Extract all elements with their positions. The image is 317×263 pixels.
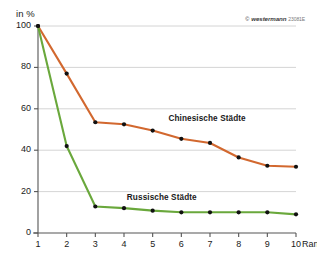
x-tick-label-3: 3 <box>87 239 103 249</box>
data-point-0-9 <box>294 165 298 169</box>
x-tick-label-6: 6 <box>173 239 189 249</box>
y-tick-label-60: 60 <box>9 103 31 113</box>
data-point-1-3 <box>122 206 126 210</box>
chart-plot-area <box>0 0 317 263</box>
series-label-0: Chinesische Städte <box>168 114 245 123</box>
data-point-0-4 <box>151 128 155 132</box>
data-point-0-2 <box>93 120 97 124</box>
x-axis-title: Rang <box>302 239 317 249</box>
data-point-0-6 <box>208 141 212 145</box>
data-point-1-2 <box>93 204 97 208</box>
series-label-1: Russische Städte <box>127 193 197 202</box>
x-tick-label-4: 4 <box>116 239 132 249</box>
chart-figure: in % © westermann 23081E 020406080100 12… <box>0 0 317 263</box>
x-tick-label-1: 1 <box>30 239 46 249</box>
x-tick-label-5: 5 <box>145 239 161 249</box>
y-tick-label-100: 100 <box>9 20 31 30</box>
data-point-0-3 <box>122 122 126 126</box>
series-line-1 <box>38 26 296 214</box>
data-point-1-4 <box>151 209 155 213</box>
data-point-0-1 <box>65 72 69 76</box>
y-tick-label-0: 0 <box>9 227 31 237</box>
y-tick-label-40: 40 <box>9 144 31 154</box>
data-point-0-5 <box>179 137 183 141</box>
data-point-1-7 <box>237 210 241 214</box>
data-point-1-8 <box>265 210 269 214</box>
data-point-0-8 <box>265 164 269 168</box>
data-point-1-5 <box>179 210 183 214</box>
data-point-1-6 <box>208 210 212 214</box>
y-tick-label-80: 80 <box>9 61 31 71</box>
x-tick-label-8: 8 <box>231 239 247 249</box>
x-tick-label-2: 2 <box>59 239 75 249</box>
x-tick-label-9: 9 <box>259 239 275 249</box>
data-point-1-0 <box>36 24 40 28</box>
series-line-0 <box>38 26 296 167</box>
data-point-0-7 <box>237 155 241 159</box>
x-tick-label-7: 7 <box>202 239 218 249</box>
y-tick-label-20: 20 <box>9 186 31 196</box>
data-point-1-1 <box>65 144 69 148</box>
data-point-1-9 <box>294 212 298 216</box>
